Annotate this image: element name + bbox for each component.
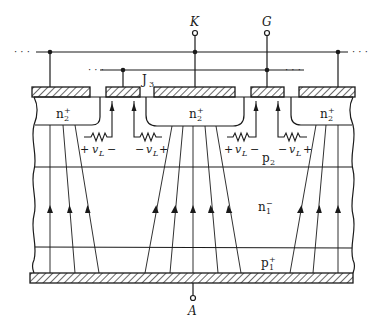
svg-text:L: L xyxy=(152,149,158,158)
svg-text:2: 2 xyxy=(270,158,275,167)
n2-plus-left-label: n + 2 xyxy=(56,106,71,123)
junction-j3-label: J 3 xyxy=(140,73,154,89)
svg-text:v: v xyxy=(92,143,99,156)
right-break-edge xyxy=(350,97,355,273)
svg-text:p: p xyxy=(261,256,269,270)
svg-text:−: − xyxy=(135,143,144,156)
svg-text:n: n xyxy=(258,200,266,214)
svg-text:−: − xyxy=(250,143,259,156)
svg-text:p: p xyxy=(262,151,270,165)
svg-text:−: − xyxy=(278,143,287,156)
gate-terminal-icon xyxy=(265,31,270,36)
n1-p1-junction xyxy=(35,247,352,248)
vl-label-4: − v L + xyxy=(278,143,312,158)
top-metallization xyxy=(32,87,355,97)
svg-text:2: 2 xyxy=(197,114,202,123)
continuation-right-top: · · · xyxy=(352,46,368,57)
vl-label-1: + v L − xyxy=(80,143,116,158)
continuation-right-gate: · · · xyxy=(285,64,301,75)
current-arrowheads xyxy=(47,205,341,213)
gate-pad-right xyxy=(251,87,284,97)
svg-text:v: v xyxy=(235,143,242,156)
svg-text:+: + xyxy=(303,143,312,156)
cathode-pad-center xyxy=(154,87,235,97)
svg-text:1: 1 xyxy=(269,263,274,272)
svg-text:n: n xyxy=(320,107,328,121)
svg-text:2: 2 xyxy=(64,114,69,123)
cathode-pad-right xyxy=(299,87,355,97)
svg-text:v: v xyxy=(289,143,296,156)
anode-metallization xyxy=(30,273,353,283)
vl-label-3: + v L − xyxy=(224,143,259,158)
svg-text:1: 1 xyxy=(266,207,271,216)
lateral-resistor-2 xyxy=(134,101,162,141)
gate-label: G xyxy=(262,15,272,29)
svg-text:L: L xyxy=(241,149,247,158)
p2-label: p 2 xyxy=(262,151,275,167)
anode-terminal-icon xyxy=(191,296,196,301)
continuation-left-top: · · · xyxy=(14,46,30,57)
cathode-pad-left xyxy=(32,87,90,97)
svg-text:3: 3 xyxy=(149,80,154,89)
gto-cross-section-diagram: · · · · · · · · · · · · K G A xyxy=(0,0,388,332)
gate-pad-left xyxy=(106,87,140,97)
svg-text:n: n xyxy=(56,107,64,121)
lateral-resistor-3 xyxy=(227,101,256,141)
svg-text:−: − xyxy=(107,143,116,156)
svg-text:+: + xyxy=(80,143,89,156)
svg-text:+: + xyxy=(224,143,233,156)
n2-plus-center-label: n + 2 xyxy=(189,106,204,123)
svg-text:L: L xyxy=(98,149,104,158)
anode-label: A xyxy=(187,304,197,318)
svg-text:J: J xyxy=(140,73,147,87)
svg-text:L: L xyxy=(295,149,301,158)
p1-plus-label: p + 1 xyxy=(261,255,276,272)
svg-text:n: n xyxy=(189,107,197,121)
cathode-label: K xyxy=(189,15,200,29)
svg-text:2: 2 xyxy=(328,114,333,123)
lateral-resistor-1 xyxy=(84,101,112,141)
n1-minus-label: n − 1 xyxy=(258,199,273,216)
vl-label-2: − v L + xyxy=(135,143,168,158)
n2-plus-right-label: n + 2 xyxy=(320,106,335,123)
svg-text:v: v xyxy=(146,143,153,156)
svg-text:+: + xyxy=(159,143,168,156)
continuation-left-gate: · · · xyxy=(88,64,104,75)
cathode-terminal-icon xyxy=(193,31,198,36)
